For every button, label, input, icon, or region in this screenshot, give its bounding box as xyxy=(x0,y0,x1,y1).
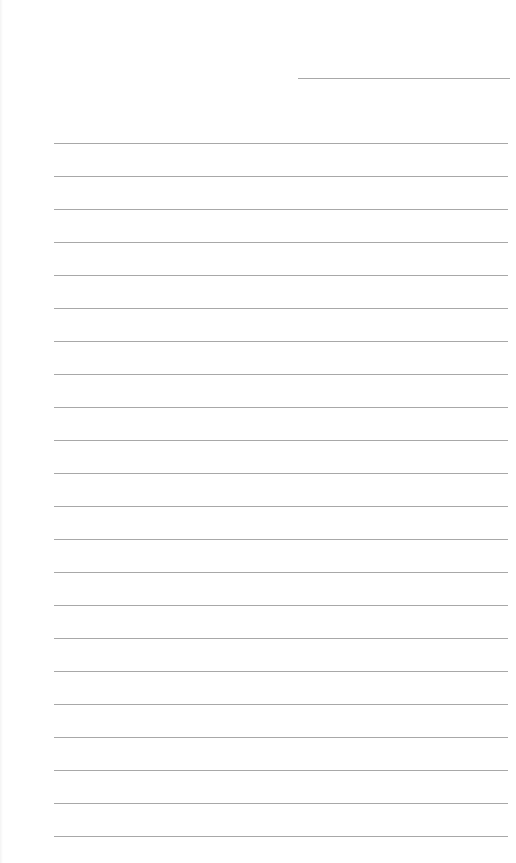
ruled-line[interactable] xyxy=(54,671,508,672)
ruled-line[interactable] xyxy=(54,473,508,474)
ruled-line[interactable] xyxy=(54,143,508,144)
ruled-line[interactable] xyxy=(54,572,508,573)
ruled-line[interactable] xyxy=(54,704,508,705)
header-field-line[interactable] xyxy=(298,78,510,79)
ruled-line[interactable] xyxy=(54,275,508,276)
ruled-line[interactable] xyxy=(54,539,508,540)
ruled-line[interactable] xyxy=(54,605,508,606)
ruled-line[interactable] xyxy=(54,506,508,507)
ruled-line[interactable] xyxy=(54,803,508,804)
ruled-line[interactable] xyxy=(54,770,508,771)
ruled-line[interactable] xyxy=(54,407,508,408)
page-edge-shadow xyxy=(0,0,3,863)
ruled-line[interactable] xyxy=(54,638,508,639)
ruled-line[interactable] xyxy=(54,341,508,342)
ruled-line[interactable] xyxy=(54,440,508,441)
ruled-line[interactable] xyxy=(54,308,508,309)
ruled-line[interactable] xyxy=(54,176,508,177)
ruled-line[interactable] xyxy=(54,242,508,243)
ruled-line[interactable] xyxy=(54,836,508,837)
ruled-line[interactable] xyxy=(54,209,508,210)
ruled-line[interactable] xyxy=(54,374,508,375)
ruled-line[interactable] xyxy=(54,737,508,738)
